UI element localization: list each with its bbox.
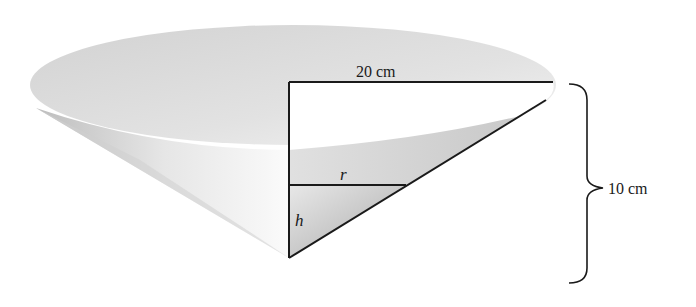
inner-height-label: h: [295, 211, 304, 230]
height-label: 10 cm: [608, 180, 648, 197]
cone-diagram: 20 cm 10 cm r h: [0, 0, 696, 307]
cone-svg: 20 cm 10 cm r h: [0, 0, 696, 307]
height-brace: [569, 84, 603, 283]
top-radius-label: 20 cm: [356, 63, 396, 80]
inner-radius-label: r: [340, 165, 347, 184]
